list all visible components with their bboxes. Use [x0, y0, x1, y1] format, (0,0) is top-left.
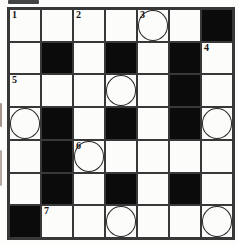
clue-number-3: 3: [140, 9, 145, 20]
cell-r1c6[interactable]: [169, 9, 201, 42]
cell-r1c2[interactable]: [41, 9, 73, 42]
cell-r1c1[interactable]: 1: [9, 9, 41, 42]
cell-r1c4[interactable]: [105, 9, 137, 42]
cell-r3c1[interactable]: 5: [9, 74, 41, 107]
black-square-r7c1: [9, 205, 41, 238]
clue-number-1: 1: [12, 9, 17, 20]
cell-r3c4[interactable]: [105, 74, 137, 107]
circle-marker: [106, 206, 136, 237]
scan-artifact-left-mark: [0, 103, 2, 127]
black-square-r5c2: [41, 140, 73, 173]
black-square-r6c4: [105, 173, 137, 206]
clue-number-4: 4: [204, 42, 209, 53]
clue-number-5: 5: [12, 74, 17, 85]
crossword-page: 1234567: [0, 0, 238, 245]
scan-artifact-top-smudge: [8, 0, 39, 4]
black-square-r6c2: [41, 173, 73, 206]
cell-r5c4[interactable]: [105, 140, 137, 173]
cell-r3c7[interactable]: [201, 74, 233, 107]
cell-r5c7[interactable]: [201, 140, 233, 173]
cell-r6c7[interactable]: [201, 173, 233, 206]
black-square-r2c2: [41, 42, 73, 75]
circle-marker: [106, 75, 136, 106]
circle-marker: [10, 108, 40, 139]
cell-r6c5[interactable]: [137, 173, 169, 206]
scan-artifact-left-mark: [0, 150, 2, 186]
black-square-r2c6: [169, 42, 201, 75]
crossword-grid: 1234567: [7, 7, 235, 240]
cell-r1c5[interactable]: 3: [137, 9, 169, 42]
cell-r7c3[interactable]: [73, 205, 105, 238]
clue-number-7: 7: [44, 205, 49, 216]
cell-r4c7[interactable]: [201, 107, 233, 140]
circle-marker: [202, 108, 232, 139]
cell-r7c5[interactable]: [137, 205, 169, 238]
cell-r3c3[interactable]: [73, 74, 105, 107]
cell-r5c1[interactable]: [9, 140, 41, 173]
cell-r3c5[interactable]: [137, 74, 169, 107]
cell-r3c2[interactable]: [41, 74, 73, 107]
cell-r7c4[interactable]: [105, 205, 137, 238]
black-square-r2c4: [105, 42, 137, 75]
black-square-r4c6: [169, 107, 201, 140]
cell-r7c2[interactable]: 7: [41, 205, 73, 238]
cell-r5c3[interactable]: 6: [73, 140, 105, 173]
black-square-r4c2: [41, 107, 73, 140]
cell-r4c5[interactable]: [137, 107, 169, 140]
cell-r7c6[interactable]: [169, 205, 201, 238]
cell-r2c3[interactable]: [73, 42, 105, 75]
cell-r6c3[interactable]: [73, 173, 105, 206]
circle-marker: [202, 206, 232, 237]
cell-r7c7[interactable]: [201, 205, 233, 238]
cell-r5c5[interactable]: [137, 140, 169, 173]
cell-r5c6[interactable]: [169, 140, 201, 173]
cell-r1c3[interactable]: 2: [73, 9, 105, 42]
black-square-r3c6: [169, 74, 201, 107]
cell-r6c1[interactable]: [9, 173, 41, 206]
clue-number-6: 6: [76, 140, 81, 151]
black-square-r1c7: [201, 9, 233, 42]
cell-r2c1[interactable]: [9, 42, 41, 75]
cell-r4c3[interactable]: [73, 107, 105, 140]
black-square-r4c4: [105, 107, 137, 140]
cell-r4c1[interactable]: [9, 107, 41, 140]
black-square-r6c6: [169, 173, 201, 206]
cell-r2c5[interactable]: [137, 42, 169, 75]
clue-number-2: 2: [76, 9, 81, 20]
cell-r2c7[interactable]: 4: [201, 42, 233, 75]
